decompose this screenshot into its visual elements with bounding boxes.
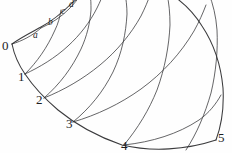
- node-label-numeric-1: 1: [18, 70, 25, 83]
- node-label-alpha-d: d: [69, 0, 74, 10]
- node-label-numeric-0: 0: [2, 39, 9, 52]
- node-label-alpha-a: a: [33, 31, 38, 41]
- node-label-numeric-3: 3: [66, 117, 73, 130]
- arc-4-outer: [124, 95, 221, 145]
- radial-4: [124, 0, 170, 145]
- node-label-numeric-4: 4: [121, 139, 128, 152]
- mesh-drawing: [0, 0, 232, 153]
- node-label-alpha-b: b: [48, 18, 53, 28]
- radial-2c: [44, 0, 91, 98]
- node-label-numeric-5: 5: [218, 131, 225, 144]
- boundary-lines-group: [12, 0, 223, 149]
- radial-5: [186, 0, 217, 150]
- node-label-numeric-2: 2: [36, 93, 43, 106]
- arc-3-outer: [73, 5, 206, 122]
- node-label-alpha-c: c: [61, 7, 65, 17]
- radial-3d: [73, 0, 127, 122]
- left-boundary-arc: [12, 44, 216, 149]
- circumferential-lines-group: [25, 0, 221, 145]
- mesh-figure-canvas: 012345abcd: [0, 0, 232, 153]
